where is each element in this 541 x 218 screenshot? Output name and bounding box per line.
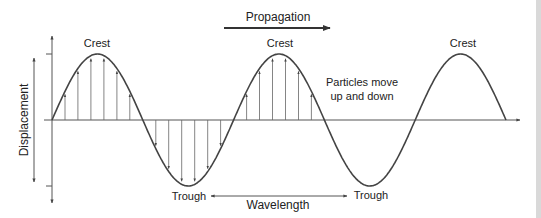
page-edge bbox=[536, 0, 541, 218]
transverse-wave-diagram: Propagation Displacement Crest Crest Cre… bbox=[0, 0, 541, 218]
wavelength-label: Wavelength bbox=[247, 198, 310, 212]
trough-label-1: Trough bbox=[172, 190, 206, 202]
particles-label-line-2: up and down bbox=[331, 90, 394, 102]
displacement-label: Displacement bbox=[17, 83, 31, 156]
crest-label-1: Crest bbox=[84, 37, 110, 49]
trough-label-2: Trough bbox=[354, 189, 388, 201]
crest-label-2: Crest bbox=[267, 37, 293, 49]
propagation-label: Propagation bbox=[246, 10, 311, 24]
particles-label-line-1: Particles move bbox=[326, 76, 398, 88]
crest-label-3: Crest bbox=[450, 37, 476, 49]
